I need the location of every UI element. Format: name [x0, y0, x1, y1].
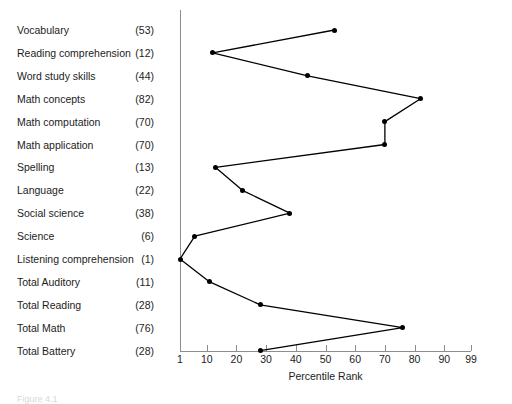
- y-axis-line: [180, 10, 181, 351]
- x-axis-tick-label: 10: [192, 353, 222, 365]
- x-axis-tick-label: 80: [400, 353, 430, 365]
- x-axis-tick-label: 99: [456, 353, 486, 365]
- figure-container: Vocabulary(53)Reading comprehension(12)W…: [0, 0, 512, 404]
- data-point: [258, 348, 263, 353]
- data-point: [178, 257, 183, 262]
- x-axis-tick: [415, 345, 416, 351]
- figure-caption: Figure 4.1: [17, 394, 58, 404]
- chart-plot-area: 110203040506070809099 Percentile Rank: [0, 0, 512, 404]
- x-axis-tick: [296, 345, 297, 351]
- data-point: [192, 234, 197, 239]
- data-point: [213, 165, 218, 170]
- x-axis-tick-label: 90: [429, 353, 459, 365]
- x-axis-tick-label: 50: [311, 353, 341, 365]
- series-line: [0, 0, 512, 404]
- data-point: [382, 119, 387, 124]
- data-point: [400, 325, 405, 330]
- x-axis-tick-label: 1: [165, 353, 195, 365]
- data-point: [332, 28, 337, 33]
- x-axis-tick: [207, 345, 208, 351]
- x-axis-label: Percentile Rank: [180, 370, 471, 382]
- data-point: [207, 279, 212, 284]
- x-axis-tick: [180, 345, 181, 351]
- data-point: [210, 50, 215, 55]
- x-axis-tick: [355, 345, 356, 351]
- x-axis-tick-label: 70: [370, 353, 400, 365]
- data-point: [418, 96, 423, 101]
- x-axis-tick: [266, 345, 267, 351]
- x-axis-tick: [385, 345, 386, 351]
- data-point: [258, 302, 263, 307]
- data-point: [305, 73, 310, 78]
- x-axis-line: [180, 351, 471, 352]
- data-point: [240, 188, 245, 193]
- x-axis-tick-label: 40: [281, 353, 311, 365]
- x-axis-tick-label: 30: [251, 353, 281, 365]
- x-axis-tick: [444, 345, 445, 351]
- x-axis-tick-label: 60: [340, 353, 370, 365]
- data-point: [382, 142, 387, 147]
- x-axis-tick: [236, 345, 237, 351]
- x-axis-tick-label: 20: [221, 353, 251, 365]
- data-point: [287, 211, 292, 216]
- x-axis-tick: [326, 345, 327, 351]
- x-axis-tick: [471, 345, 472, 351]
